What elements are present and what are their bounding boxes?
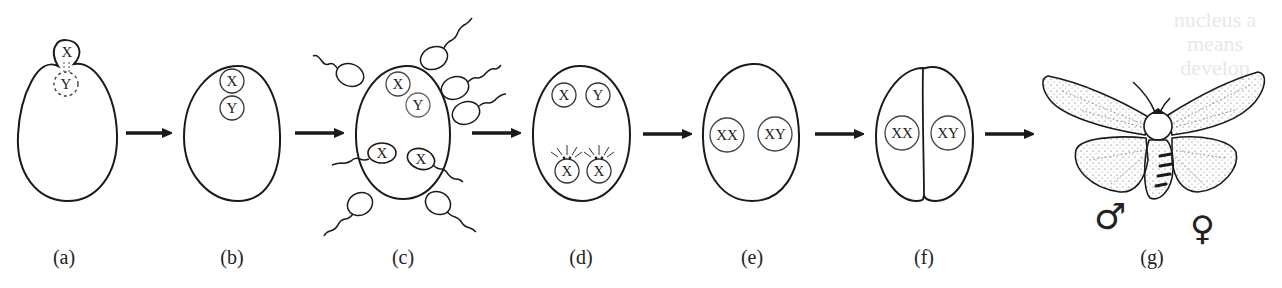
nucleus-x: X [393, 76, 404, 92]
sperm-nucleus-x-2: X [416, 151, 427, 167]
panel-label-c: (c) [392, 246, 414, 269]
panel-label-f: (f) [914, 246, 934, 269]
nucleus-xy: XY [764, 126, 786, 142]
panel-g-moth [1043, 72, 1265, 199]
panel-c-egg-with-sperm: X Y X X [313, 18, 506, 236]
panel-label-d: (d) [569, 246, 592, 269]
sperm-cells [313, 18, 506, 236]
male-symbol-icon: ♂ [1094, 196, 1126, 237]
sperm-nucleus-x-1: X [377, 145, 388, 161]
nucleus-y: Y [593, 87, 604, 103]
abdomen [1145, 140, 1174, 199]
right-forewing [1168, 72, 1264, 135]
sperm-nucleus-x-1: X [562, 163, 573, 179]
panel-e-egg: XX XY [703, 64, 799, 201]
diagram-canvas: X Y X Y X Y X X [0, 0, 1282, 288]
panel-label-g: (g) [1140, 246, 1163, 269]
panel-label-e: (e) [741, 246, 763, 269]
nucleus-y: Y [413, 97, 424, 113]
nucleus-y-label: Y [61, 76, 72, 92]
panel-label-b: (b) [220, 246, 243, 269]
panel-d-egg: X Y X X [533, 66, 630, 201]
nucleus-x: X [559, 87, 570, 103]
nucleus-xx: XX [891, 125, 913, 141]
panel-label-a: (a) [53, 246, 75, 269]
nucleus-xx: XX [716, 127, 738, 143]
centrosome-rays [551, 145, 614, 157]
panel-b-egg: X Y [184, 66, 280, 201]
nucleus-y: Y [227, 100, 238, 116]
thorax [1144, 112, 1172, 140]
female-symbol-icon: ♀ [1190, 208, 1215, 248]
nucleus-x: X [227, 73, 238, 89]
left-forewing [1043, 76, 1150, 135]
panel-f-divided-egg: XX XY [876, 67, 973, 201]
nucleus-xy: XY [937, 125, 959, 141]
nucleus-x-polar: X [62, 44, 73, 60]
svg-text:X: X [62, 44, 73, 60]
sperm-nucleus-x-2: X [594, 163, 605, 179]
right-hindwing [1172, 137, 1237, 192]
panel-a-egg: X Y [18, 40, 117, 201]
